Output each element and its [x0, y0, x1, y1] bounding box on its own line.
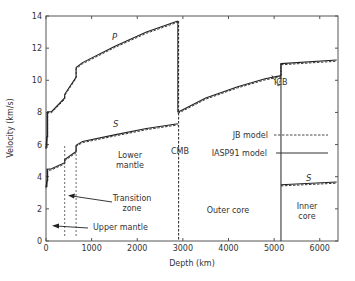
icb-label: ICB [274, 78, 287, 87]
outer-core-label: Outer core [207, 206, 250, 215]
plot-frame [46, 16, 338, 241]
x-tick-label: 3000 [173, 244, 193, 253]
x-tick-label: 6000 [310, 244, 330, 253]
legend-jb-label: JB model [232, 131, 268, 140]
x-ticks: 0100020003000400050006000 [43, 16, 329, 253]
y-tick-label: 10 [32, 76, 42, 85]
x-tick-label: 0 [43, 244, 48, 253]
x-tick-label: 5000 [264, 244, 284, 253]
series-line [46, 125, 178, 188]
x-tick-label: 1000 [81, 244, 101, 253]
y-tick-label: 8 [37, 108, 42, 117]
y-tick-label: 12 [32, 44, 42, 53]
p-wave-label: P [112, 32, 118, 42]
series-line [281, 60, 337, 64]
axes: 0100020003000400050006000 02468101214 [32, 12, 338, 253]
y-tick-label: 14 [32, 12, 42, 21]
inner-core-label: Inner [297, 202, 318, 211]
series-line [178, 76, 281, 113]
legend-iasp91-label: IASP91 model [212, 149, 267, 158]
transition-zone-label-2: zone [122, 204, 141, 213]
y-tick-label: 6 [37, 141, 42, 150]
velocity-depth-chart: 0100020003000400050006000 02468101214 P … [0, 0, 355, 281]
jb-model-lines [46, 21, 337, 241]
lower-mantle-label: Lower [118, 151, 143, 160]
x-tick-label: 4000 [218, 244, 238, 253]
y-tick-label: 0 [37, 237, 42, 246]
upper-mantle-label: Upper mantle [93, 223, 148, 232]
s-inner-label: S [306, 173, 312, 183]
x-axis-label: Depth (km) [169, 259, 215, 268]
x-tick-label: 2000 [127, 244, 147, 253]
cmb-label: CMB [171, 147, 189, 156]
y-tick-label: 2 [37, 205, 42, 214]
y-ticks: 02468101214 [32, 12, 338, 246]
s-wave-label: S [113, 119, 119, 129]
series-line [46, 124, 178, 187]
y-axis-label: Velocity (km/s) [6, 98, 15, 157]
lower-mantle-label-2: mantle [116, 161, 144, 170]
iasp91-model-lines [46, 21, 337, 241]
legend: JB model IASP91 model [212, 131, 328, 158]
transition-zone-label: Transition [112, 194, 152, 203]
series-line [178, 77, 281, 114]
y-tick-label: 4 [37, 173, 42, 182]
inner-core-label-2: core [298, 212, 315, 221]
